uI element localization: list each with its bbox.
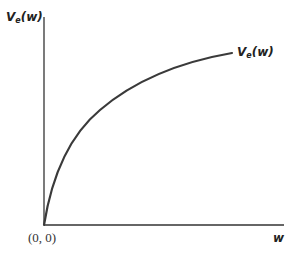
y-axis-label-arg: (w)	[21, 10, 43, 24]
x-axis-label: w	[273, 231, 284, 245]
curve-label: Ve(w)	[237, 45, 274, 60]
y-axis-label: Ve(w)	[6, 10, 43, 25]
value-function-curve	[44, 53, 232, 225]
curve-label-v: V	[237, 45, 246, 59]
origin-label: (0, 0)	[28, 230, 56, 246]
y-axis-label-v: V	[6, 10, 15, 24]
curve-label-arg: (w)	[252, 45, 274, 59]
diagram-canvas	[0, 0, 302, 253]
